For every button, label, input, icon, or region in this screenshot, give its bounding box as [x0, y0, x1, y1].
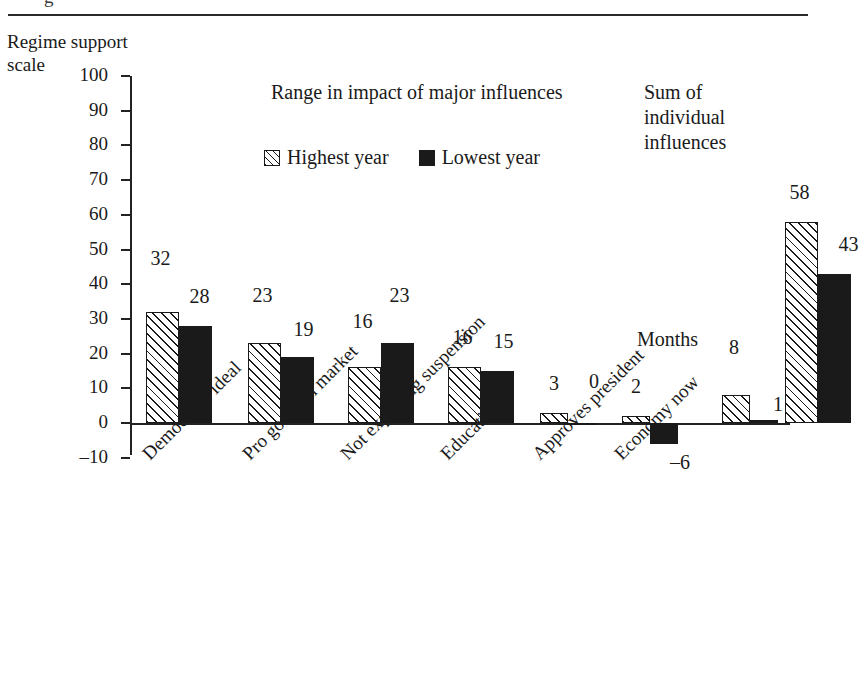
y-tick-label-40: 40	[89, 272, 108, 294]
y-tick-label-80: 80	[89, 133, 108, 155]
value-label-highest-5: 2	[631, 375, 641, 398]
bar-hatched-6	[722, 395, 750, 423]
y-tick-40: 40	[121, 283, 130, 285]
y-tick-30: 30	[121, 318, 130, 320]
y-tick-10: 10	[121, 387, 130, 389]
bar-hatched-0	[146, 312, 179, 423]
value-label-lowest-1: 19	[294, 318, 314, 341]
y-tick-50: 50	[121, 249, 130, 251]
value-label-lowest-7: 43	[839, 233, 859, 256]
value-label-lowest-3: 15	[494, 330, 514, 353]
y-tick-label-70: 70	[89, 168, 108, 190]
value-label-lowest-2: 23	[390, 284, 410, 307]
value-label-lowest-0: 28	[190, 285, 210, 308]
y-tick-0: 0	[121, 422, 130, 424]
y-tick-label-30: 30	[89, 307, 108, 329]
y-tick--10: –10	[121, 457, 130, 459]
y-tick-label-100: 100	[80, 64, 109, 86]
value-label-highest-0: 32	[151, 247, 171, 270]
y-tick-label-10: 10	[89, 376, 108, 398]
y-tick-label-60: 60	[89, 203, 108, 225]
y-tick-label-90: 90	[89, 99, 108, 121]
bar-hatched-7	[785, 222, 818, 423]
value-label-highest-1: 23	[253, 284, 273, 307]
y-tick-90: 90	[121, 110, 130, 112]
value-label-highest-6: 8	[729, 336, 739, 359]
y-tick-80: 80	[121, 144, 130, 146]
y-tick-70: 70	[121, 179, 130, 181]
y-tick-60: 60	[121, 214, 130, 216]
y-tick-label-0: 0	[99, 411, 109, 433]
y-tick-label--10: –10	[80, 446, 109, 468]
y-tick-20: 20	[121, 353, 130, 355]
top-horizontal-rule	[8, 14, 808, 16]
plot-area: –100102030405060708090100 32282319162316…	[130, 76, 790, 455]
cut-caption-glyph: g	[44, 0, 54, 8]
value-label-highest-7: 58	[790, 181, 810, 204]
value-label-highest-2: 16	[353, 310, 373, 333]
value-label-lowest-5: –6	[670, 451, 690, 474]
value-label-highest-4: 3	[549, 372, 559, 395]
y-tick-label-20: 20	[89, 342, 108, 364]
bar-solid-6	[750, 420, 778, 423]
value-label-lowest-6: 1	[773, 393, 783, 416]
y-axis-line	[130, 76, 132, 455]
y-tick-label-50: 50	[89, 238, 108, 260]
y-tick-100: 100	[121, 75, 130, 77]
bar-solid-7	[818, 274, 851, 423]
